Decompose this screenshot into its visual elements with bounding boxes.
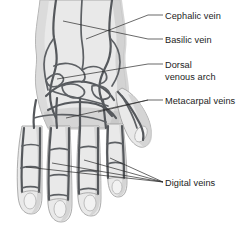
label-dorsal-venous-arch-line2: venous arch <box>165 72 216 82</box>
metacarpal-vein-2 <box>56 98 57 128</box>
hand-vein-diagram: Cephalic vein Basilic vein Dorsal venous… <box>0 0 250 230</box>
digital-vein-ring-medial <box>79 128 80 194</box>
metacarpal-vein-1 <box>34 100 36 128</box>
label-dorsal-venous-arch-line1: Dorsal <box>165 60 192 70</box>
label-metacarpal-veins: Metacarpal veins <box>165 96 236 106</box>
label-digital-veins: Digital veins <box>165 178 216 188</box>
label-basilic-vein: Basilic vein <box>165 35 212 45</box>
little-finger-nail <box>112 180 122 194</box>
index-finger-nail <box>24 193 36 209</box>
label-cephalic-vein: Cephalic vein <box>165 11 221 21</box>
digital-vein-index-lateral <box>39 128 40 192</box>
digital-vein-little-medial <box>107 126 108 178</box>
ring-finger-nail <box>84 195 96 211</box>
digital-vein-middle-lateral <box>68 128 69 200</box>
middle-finger-nail <box>54 201 66 218</box>
labels-group: Cephalic vein Basilic vein Dorsal venous… <box>165 11 236 188</box>
